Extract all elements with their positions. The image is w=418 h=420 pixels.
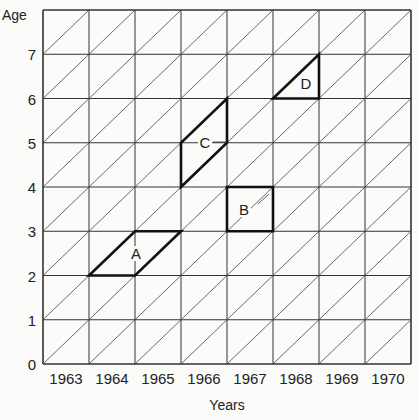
shape-d-label: D (301, 75, 312, 92)
cohort-diagonal (43, 10, 89, 54)
x-axis-ticks: 19631964196519661967196819691970 (49, 370, 404, 387)
cohort-diagonal (181, 143, 411, 364)
shapes: ABCD (89, 54, 319, 275)
y-tick-label: 7 (28, 46, 36, 63)
y-tick-label: 6 (28, 91, 36, 108)
shape-a-label: A (131, 245, 141, 262)
cohort-diagonal (365, 320, 411, 364)
y-tick-label: 0 (28, 356, 36, 373)
y-axis-ticks: 01234567 (28, 46, 36, 373)
shape-b-label: B (239, 201, 249, 218)
y-tick-label: 5 (28, 135, 36, 152)
label-leader-line (258, 194, 269, 204)
x-axis-title: Years (209, 397, 244, 413)
x-tick-label: 1964 (95, 370, 128, 387)
y-tick-label: 2 (28, 268, 36, 285)
x-tick-label: 1967 (233, 370, 266, 387)
y-tick-label: 4 (28, 179, 36, 196)
x-tick-label: 1970 (371, 370, 404, 387)
x-tick-label: 1968 (279, 370, 312, 387)
y-tick-label: 1 (28, 312, 36, 329)
y-axis-title: Age (2, 7, 27, 23)
x-tick-label: 1969 (325, 370, 358, 387)
cohort-diagonal (273, 231, 411, 364)
x-tick-label: 1966 (187, 370, 220, 387)
cohort-diagonal (43, 10, 181, 143)
x-tick-label: 1963 (49, 370, 82, 387)
shape-c-label: C (200, 134, 211, 151)
x-tick-label: 1965 (141, 370, 174, 387)
y-tick-label: 3 (28, 223, 36, 240)
lexis-diagram: ABCD 01234567 19631964196519661967196819… (0, 0, 418, 420)
cohort-diagonal (43, 10, 273, 231)
